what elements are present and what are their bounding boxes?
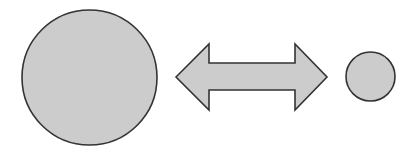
double-headed-arrow xyxy=(176,44,327,110)
small-circle xyxy=(346,52,395,101)
diagram-canvas xyxy=(0,0,414,154)
large-circle xyxy=(22,10,157,145)
